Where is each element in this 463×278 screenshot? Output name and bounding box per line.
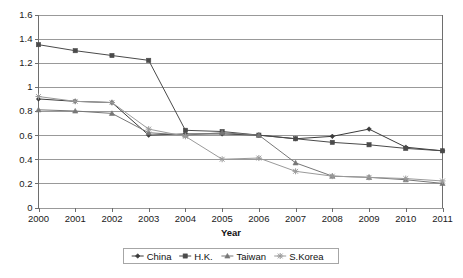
data-point-x xyxy=(440,178,446,184)
y-tick-label: 0.2 xyxy=(19,178,32,189)
x-tick-label: 2010 xyxy=(395,213,416,224)
data-point-x xyxy=(277,253,283,259)
y-tick-label: 0.4 xyxy=(19,154,32,165)
data-point-x xyxy=(109,100,115,106)
data-point-square xyxy=(36,43,40,47)
data-point-diamond xyxy=(135,254,140,259)
x-tick-label: 2011 xyxy=(432,213,452,224)
y-tick-label: 1.2 xyxy=(19,57,32,68)
data-point-square xyxy=(293,137,297,141)
y-tick-labels-group: 00.20.40.60.811.21.41.6 xyxy=(19,9,32,213)
data-point-x xyxy=(146,126,152,132)
y-tick-label: 1 xyxy=(27,81,32,92)
x-tick-label: 2008 xyxy=(322,213,343,224)
legend-label: Taiwan xyxy=(236,251,266,262)
chart-canvas: 00.20.40.60.811.21.41.6 2000200120022003… xyxy=(0,0,463,278)
y-tick-label: 0 xyxy=(27,202,32,213)
data-point-x xyxy=(182,133,188,139)
data-point-square xyxy=(404,146,408,150)
series-polyline xyxy=(39,110,443,184)
data-point-diamond xyxy=(367,127,372,132)
y-tick-label: 0.8 xyxy=(19,105,32,116)
data-point-x xyxy=(219,156,225,162)
data-point-square xyxy=(147,58,151,62)
data-point-square xyxy=(330,140,334,144)
x-tick-label: 2005 xyxy=(212,213,233,224)
data-series-group xyxy=(36,43,446,186)
x-tick-label: 2002 xyxy=(101,213,122,224)
data-point-x xyxy=(403,176,409,182)
data-point-square xyxy=(440,149,444,153)
x-tick-label: 2003 xyxy=(138,213,159,224)
legend-label: H.K. xyxy=(194,251,212,262)
y-tick-label: 1.6 xyxy=(19,9,32,20)
x-tick-label: 2001 xyxy=(65,213,86,224)
gridlines-group xyxy=(39,16,443,209)
data-point-x xyxy=(72,98,78,104)
series-polyline xyxy=(39,99,443,151)
data-point-x xyxy=(329,173,335,179)
line-chart: 00.20.40.60.811.21.41.6 2000200120022003… xyxy=(0,0,463,278)
x-tick-label: 2009 xyxy=(358,213,379,224)
y-tick-label: 1.4 xyxy=(19,33,32,44)
x-tick-label: 2006 xyxy=(248,213,269,224)
x-tick-label: 2007 xyxy=(285,213,306,224)
chart-legend: ChinaH.K.TaiwanS.Korea xyxy=(124,249,339,264)
data-point-x xyxy=(293,168,299,174)
data-point-x xyxy=(36,94,42,100)
legend-label: S.Korea xyxy=(289,251,324,262)
series-china xyxy=(36,97,445,153)
y-tick-label: 0.6 xyxy=(19,130,32,141)
data-point-diamond xyxy=(330,134,335,139)
data-point-x xyxy=(256,155,262,161)
data-point-square xyxy=(73,49,77,53)
data-point-x xyxy=(366,174,372,180)
legend-label: China xyxy=(147,251,173,262)
x-tick-labels-group: 2000200120022003200420052006200720082009… xyxy=(28,213,453,224)
x-tick-label: 2004 xyxy=(175,213,196,224)
data-point-square xyxy=(183,128,187,132)
x-axis-title: Year xyxy=(221,227,241,238)
data-point-square xyxy=(110,53,114,57)
x-tick-label: 2000 xyxy=(28,213,49,224)
data-point-square xyxy=(183,254,187,258)
series-s-korea xyxy=(36,94,446,184)
data-point-square xyxy=(367,143,371,147)
series-polyline xyxy=(39,97,443,181)
